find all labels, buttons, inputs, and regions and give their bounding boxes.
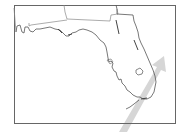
lake-okeechobee — [136, 68, 143, 75]
florida-map — [0, 0, 186, 132]
direction-arrow — [119, 56, 166, 132]
map-frame — [15, 6, 176, 124]
coastal-wetlands — [58, 20, 147, 99]
state-borders — [14, 5, 118, 32]
florida-outline — [16, 5, 156, 109]
